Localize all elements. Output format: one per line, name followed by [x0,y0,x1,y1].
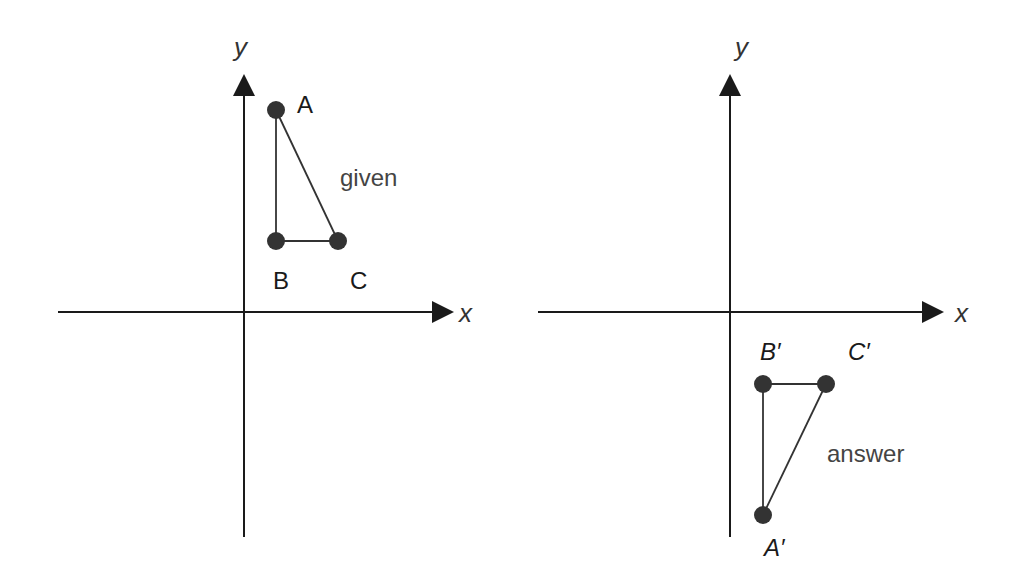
right-x-arrow-icon [922,301,944,323]
label-b: B [273,267,289,294]
answer-caption: answer [827,440,904,467]
point-b [267,232,285,250]
point-a [267,101,285,119]
left-y-arrow-icon [233,74,255,96]
given-triangle [267,101,347,250]
edge-a-c-prime [763,384,826,515]
label-c: C [350,267,367,294]
point-c [329,232,347,250]
left-y-axis-label: y [232,32,249,62]
label-a: A [297,91,313,118]
left-graph: x y A B C given [58,32,473,537]
label-b-prime: B′ [760,338,782,365]
point-b-prime [754,375,772,393]
point-a-prime [754,506,772,524]
answer-triangle [754,375,835,524]
right-y-axis-label: y [733,32,750,62]
edge-ac [276,110,338,241]
right-graph: x y B′ C′ A′ answer [538,32,969,561]
label-c-prime: C′ [848,338,871,365]
left-x-arrow-icon [432,301,454,323]
reflection-diagram: x y A B C given x y [0,0,1028,586]
right-x-axis-label: x [953,298,969,328]
point-c-prime [817,375,835,393]
left-x-axis-label: x [457,298,473,328]
label-a-prime: A′ [762,534,786,561]
given-caption: given [340,164,397,191]
right-y-arrow-icon [719,74,741,96]
